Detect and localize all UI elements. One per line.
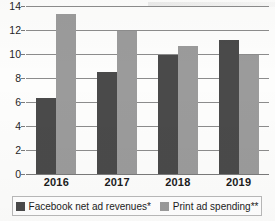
y-tick-label-6: 6 bbox=[15, 97, 21, 108]
legend-item-1: Print ad spending** bbox=[160, 201, 259, 212]
bars-2017 bbox=[87, 6, 148, 174]
legend-item-0: Facebook net ad revenues* bbox=[16, 201, 151, 212]
y-tick-mark-2 bbox=[21, 150, 25, 151]
y-tick-mark-6 bbox=[21, 102, 25, 103]
bar-2016-series-0 bbox=[36, 98, 56, 174]
y-tick-mark-0 bbox=[21, 174, 25, 175]
legend-label-0: Facebook net ad revenues* bbox=[29, 201, 151, 212]
y-tick-mark-12 bbox=[21, 30, 25, 31]
bar-2017-series-1 bbox=[117, 31, 137, 174]
bar-groups bbox=[26, 6, 269, 174]
bar-2016-series-1 bbox=[56, 14, 76, 174]
y-tick-label-4: 4 bbox=[15, 121, 21, 132]
y-tick-label-0: 0 bbox=[15, 169, 21, 180]
bar-group-2019 bbox=[208, 6, 269, 174]
bars-2019 bbox=[208, 6, 269, 174]
bar-2017-series-0 bbox=[97, 72, 117, 174]
bar-2018-series-0 bbox=[158, 55, 178, 174]
y-tick-label-10: 10 bbox=[9, 49, 21, 60]
x-axis-labels: 2016201720182019 bbox=[26, 176, 269, 192]
bars-2018 bbox=[148, 6, 209, 174]
legend-swatch-icon-1 bbox=[160, 202, 169, 211]
y-tick-label-12: 12 bbox=[9, 25, 21, 36]
y-tick-label-14: 14 bbox=[9, 1, 21, 12]
bar-group-2016 bbox=[26, 6, 87, 174]
gridline-0: 0 bbox=[26, 174, 269, 175]
legend-label-1: Print ad spending** bbox=[173, 201, 259, 212]
bar-group-2017 bbox=[87, 6, 148, 174]
y-tick-label-8: 8 bbox=[15, 73, 21, 84]
y-tick-label-2: 2 bbox=[15, 145, 21, 156]
y-tick-mark-4 bbox=[21, 126, 25, 127]
x-axis-label-2016: 2016 bbox=[26, 176, 87, 192]
plot-area: 02468101214 bbox=[26, 6, 269, 174]
bar-group-2018 bbox=[148, 6, 209, 174]
bar-2018-series-1 bbox=[178, 46, 198, 174]
bar-2019-series-0 bbox=[219, 40, 239, 174]
bar-chart: 02468101214 2016201720182019 Facebook ne… bbox=[0, 0, 275, 221]
legend-swatch-icon-0 bbox=[16, 202, 25, 211]
y-tick-mark-8 bbox=[21, 78, 25, 79]
chart-legend: Facebook net ad revenues* Print ad spend… bbox=[12, 196, 262, 216]
bar-2019-series-1 bbox=[239, 55, 259, 174]
y-tick-mark-14 bbox=[21, 6, 25, 7]
x-axis-label-2019: 2019 bbox=[208, 176, 269, 192]
bars-2016 bbox=[26, 6, 87, 174]
x-axis-label-2017: 2017 bbox=[87, 176, 148, 192]
y-tick-mark-10 bbox=[21, 54, 25, 55]
x-axis-label-2018: 2018 bbox=[148, 176, 209, 192]
